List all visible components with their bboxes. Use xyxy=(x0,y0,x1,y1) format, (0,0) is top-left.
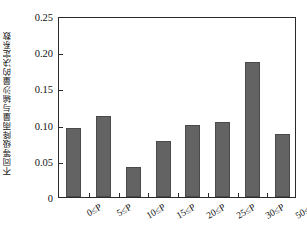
bar xyxy=(215,122,230,197)
x-axis-tick-labels: 0≤P5≤P10≤P15≤P20≤P25≤P30≤P50≤P xyxy=(58,198,296,233)
x-axis-tick-label: 0≤P xyxy=(85,202,103,218)
bar xyxy=(156,141,171,197)
bar xyxy=(126,167,141,197)
y-axis-tick-label: 0 xyxy=(48,193,53,204)
x-axis-tick-mark xyxy=(208,193,209,197)
y-axis-tick-mark xyxy=(59,163,63,164)
y-axis-tick-labels: 00.050.100.150.200.25 xyxy=(16,0,56,233)
y-axis-tick-label: 0.20 xyxy=(35,48,53,59)
x-axis-tick-label: 5≤P xyxy=(115,202,133,218)
chart-figure: 不同等级降雨量与输沙量的决定系数 00.050.100.150.200.25 0… xyxy=(0,0,307,233)
bar xyxy=(245,62,260,197)
x-axis-tick-mark xyxy=(89,193,90,197)
x-axis-tick-label: 50≤P xyxy=(294,202,307,221)
plot-area xyxy=(58,17,296,198)
y-axis-tick-label: 0.05 xyxy=(35,156,53,167)
x-axis-tick-label: 30≤P xyxy=(264,202,286,221)
y-axis-title: 不同等级降雨量与输沙量的决定系数 xyxy=(0,0,16,205)
x-axis-tick-label: 15≤P xyxy=(175,202,197,221)
y-axis-tick-label: 0.15 xyxy=(35,84,53,95)
y-axis-tick-mark xyxy=(59,54,63,55)
x-axis-tick-mark xyxy=(178,193,179,197)
bar-group xyxy=(59,18,295,197)
x-axis-tick-mark xyxy=(238,193,239,197)
x-axis-tick-label: 25≤P xyxy=(234,202,256,221)
x-axis-tick-mark xyxy=(119,193,120,197)
y-axis-tick-label: 0.25 xyxy=(35,12,53,23)
x-axis-tick-label: 10≤P xyxy=(145,202,167,221)
plot-inner xyxy=(59,18,295,197)
bar xyxy=(275,134,290,197)
bar xyxy=(96,116,111,197)
y-axis-tick-mark xyxy=(59,90,63,91)
y-axis-title-text: 不同等级降雨量与输沙量的决定系数 xyxy=(4,31,13,175)
bar xyxy=(66,128,81,197)
y-axis-tick-mark xyxy=(59,127,63,128)
y-axis-tick-label: 0.10 xyxy=(35,120,53,131)
x-axis-tick-mark xyxy=(267,193,268,197)
x-axis-tick-label: 20≤P xyxy=(205,202,227,221)
x-axis-tick-mark xyxy=(148,193,149,197)
bar xyxy=(185,125,200,197)
